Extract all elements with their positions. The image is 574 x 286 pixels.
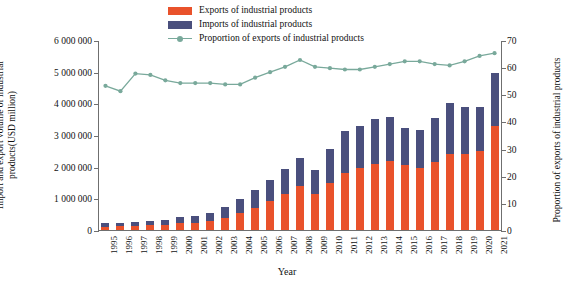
y-left-tick bbox=[94, 199, 99, 200]
y-left-tick-label: 1 000 000 bbox=[54, 194, 92, 204]
x-tick-label-2010: 2010 bbox=[334, 236, 344, 254]
y-left-tick-label: 2 000 000 bbox=[54, 163, 92, 173]
y-right-tick bbox=[501, 122, 506, 123]
proportion-point-1998 bbox=[148, 73, 152, 77]
proportion-point-2015 bbox=[403, 59, 407, 63]
x-tick-label-2008: 2008 bbox=[304, 236, 314, 254]
x-tick-label-2001: 2001 bbox=[199, 236, 209, 254]
y-right-tick bbox=[501, 150, 506, 151]
y-right-tick-label: 60 bbox=[507, 63, 517, 73]
proportion-point-2012 bbox=[358, 67, 362, 71]
plot-area bbox=[98, 41, 502, 231]
x-tick-label-2007: 2007 bbox=[289, 236, 299, 254]
proportion-point-2007 bbox=[283, 65, 287, 69]
y-right-tick-label: 10 bbox=[507, 199, 517, 209]
x-axis-title: Year bbox=[0, 266, 574, 277]
proportion-point-2021 bbox=[492, 51, 496, 55]
proportion-point-2003 bbox=[223, 82, 227, 86]
proportion-point-2019 bbox=[462, 59, 466, 63]
y-left-tick bbox=[94, 136, 99, 137]
legend-label-exports: Exports of industrial products bbox=[199, 5, 312, 16]
proportion-point-2016 bbox=[418, 59, 422, 63]
y-left-tick-label: 6 000 000 bbox=[54, 36, 92, 46]
y-right-tick bbox=[501, 231, 506, 232]
x-tick-label-2011: 2011 bbox=[349, 236, 359, 254]
x-tick-label-2012: 2012 bbox=[364, 236, 374, 254]
x-tick-label-2014: 2014 bbox=[394, 236, 404, 254]
x-tick-label-1995: 1995 bbox=[109, 236, 119, 254]
y-axis-right-ticks: 010203040506070 bbox=[507, 41, 537, 231]
proportion-point-2009 bbox=[313, 65, 317, 69]
x-tick-label-2006: 2006 bbox=[274, 236, 284, 254]
legend-swatch-imports bbox=[168, 21, 192, 29]
x-tick-label-2005: 2005 bbox=[259, 236, 269, 254]
y-left-tick-label: 5 000 000 bbox=[54, 68, 92, 78]
x-tick-label-2015: 2015 bbox=[409, 236, 419, 254]
y-right-tick-label: 50 bbox=[507, 90, 517, 100]
proportion-point-2001 bbox=[193, 81, 197, 85]
y-left-tick bbox=[94, 73, 99, 74]
x-tick-label-1998: 1998 bbox=[154, 236, 164, 254]
x-tick-label-2009: 2009 bbox=[319, 236, 329, 254]
y-left-tick-label: 4 000 000 bbox=[54, 99, 92, 109]
proportion-point-2013 bbox=[373, 65, 377, 69]
y-right-tick-label: 40 bbox=[507, 117, 517, 127]
y-left-tick bbox=[94, 41, 99, 42]
legend-label-imports: Imports of industrial products bbox=[199, 19, 312, 30]
proportion-point-2008 bbox=[298, 58, 302, 62]
x-tick-label-2017: 2017 bbox=[439, 236, 449, 254]
proportion-point-1999 bbox=[163, 78, 167, 82]
y-right-tick-label: 0 bbox=[507, 226, 512, 236]
x-tick-label-2019: 2019 bbox=[469, 236, 479, 254]
x-tick-label-2002: 2002 bbox=[214, 236, 224, 254]
x-tick-label-2016: 2016 bbox=[424, 236, 434, 254]
chart-root: Exports of industrial products Imports o… bbox=[0, 0, 574, 286]
proportion-point-2020 bbox=[477, 54, 481, 58]
chart-legend: Exports of industrial products Imports o… bbox=[168, 4, 488, 46]
y-left-tick-label: 3 000 000 bbox=[54, 131, 92, 141]
x-tick-label-2018: 2018 bbox=[454, 236, 464, 254]
legend-item-imports: Imports of industrial products bbox=[168, 18, 488, 31]
proportion-point-2004 bbox=[238, 82, 242, 86]
proportion-point-2018 bbox=[448, 63, 452, 67]
y-left-tick bbox=[94, 104, 99, 105]
proportion-point-2002 bbox=[208, 81, 212, 85]
y-axis-right-title: Proportion of exports of industrial prod… bbox=[552, 50, 562, 230]
y-right-tick-label: 70 bbox=[507, 36, 517, 46]
y-axis-left-title: Import and export volume of industrial p… bbox=[0, 60, 18, 210]
proportion-point-2017 bbox=[433, 62, 437, 66]
x-tick-label-2000: 2000 bbox=[184, 236, 194, 254]
proportion-point-1996 bbox=[118, 89, 122, 93]
x-tick-label-2021: 2021 bbox=[499, 236, 509, 254]
proportion-point-2005 bbox=[253, 76, 257, 80]
proportion-point-2010 bbox=[328, 66, 332, 70]
x-tick-label-1997: 1997 bbox=[139, 236, 149, 254]
y-right-tick bbox=[501, 204, 506, 205]
proportion-point-2006 bbox=[268, 70, 272, 74]
y-left-tick bbox=[94, 168, 99, 169]
x-tick-label-1999: 1999 bbox=[169, 236, 179, 254]
proportion-point-2000 bbox=[178, 81, 182, 85]
y-right-tick-label: 20 bbox=[507, 172, 517, 182]
y-right-tick-label: 30 bbox=[507, 145, 517, 155]
y-left-tick-label: 0 bbox=[87, 226, 92, 236]
y-right-tick bbox=[501, 177, 506, 178]
x-tick-label-2004: 2004 bbox=[244, 236, 254, 254]
y-left-tick bbox=[94, 231, 99, 232]
legend-swatch-exports bbox=[168, 7, 192, 15]
x-tick-label-2003: 2003 bbox=[229, 236, 239, 254]
x-tick-label-1996: 1996 bbox=[124, 236, 134, 254]
proportion-point-1997 bbox=[133, 71, 137, 75]
proportion-point-2011 bbox=[343, 67, 347, 71]
proportion-point-1995 bbox=[103, 84, 107, 88]
y-right-tick bbox=[501, 41, 506, 42]
y-right-tick bbox=[501, 95, 506, 96]
legend-item-exports: Exports of industrial products bbox=[168, 4, 488, 17]
line-series-proportion bbox=[98, 41, 502, 231]
x-tick-label-2020: 2020 bbox=[484, 236, 494, 254]
y-right-tick bbox=[501, 68, 506, 69]
x-tick-label-2013: 2013 bbox=[379, 236, 389, 254]
proportion-point-2014 bbox=[388, 62, 392, 66]
